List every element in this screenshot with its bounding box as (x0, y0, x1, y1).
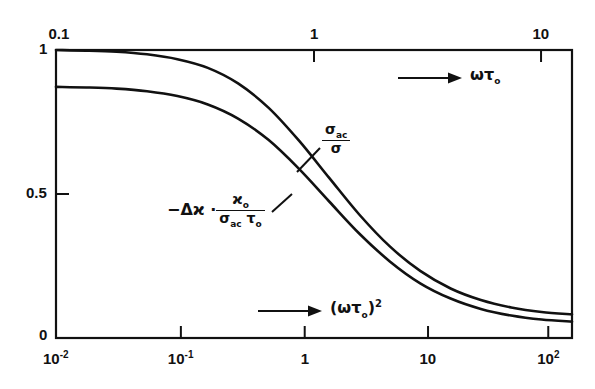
annotation-sigma-ratio: σac σ (322, 122, 350, 155)
bottom-tick-base-1: 10 (168, 350, 185, 367)
bottom-tick-label-3: 10 (420, 350, 437, 366)
sigma-den-symbol: σ (219, 210, 230, 226)
bottom-tick-exp-0: -2 (60, 349, 69, 360)
plot-frame (56, 50, 572, 338)
omega-tau-sq-base: (ωτ (330, 298, 361, 317)
sigma-ratio-fraction: σac σ (322, 122, 350, 155)
bottom-tick-exp-1: -1 (185, 349, 194, 360)
delta-kappa-denominator: σac τo (216, 210, 264, 229)
omega-tau-sq-exp: 2 (375, 298, 382, 309)
annotation-delta-kappa: −Δϰ · ϰo σac τo (167, 192, 265, 229)
bottom-tick-base-0: 10 (43, 350, 60, 367)
kappa-num-subscript: o (243, 200, 249, 210)
bottom-tick-label-4: 102 (537, 350, 559, 366)
top-axis-variable-label: ωτo (470, 67, 500, 86)
bottom-axis-variable-label: (ωτo)2 (330, 299, 382, 320)
y-tick-label-1: 1 (39, 41, 47, 56)
y-tick-label-0: 0 (39, 327, 47, 342)
bottom-tick-base-3: 10 (420, 350, 437, 367)
sigma-den-subscript: ac (230, 219, 241, 229)
bottom-tick-base-4: 10 (537, 350, 554, 367)
leader-line-lower (272, 194, 292, 212)
sigma-ratio-numerator: σac (322, 122, 350, 140)
kappa-num-symbol: ϰ (232, 191, 242, 207)
bottom-tick-exp-4: 2 (554, 349, 560, 360)
figure-root: 0.1 1 10 10-2 10-1 1 10 102 1 0.5 0 ωτo … (0, 0, 595, 389)
arrow-omega-tau-squared (258, 306, 322, 317)
curve-delta-kappa (56, 87, 572, 322)
sigma-ratio-denominator: σ (322, 140, 350, 155)
y-tick-label-05: 0.5 (26, 185, 47, 200)
omega-tau-text: ωτ (470, 65, 494, 84)
bottom-axis-ticks (56, 326, 548, 338)
sigma-num-subscript: ac (336, 130, 347, 140)
top-tick-label-2: 10 (533, 26, 550, 41)
omega-tau-sq-close: ) (368, 298, 375, 317)
top-tick-label-0: 0.1 (49, 26, 70, 41)
tau-den-subscript: o (255, 219, 261, 229)
delta-kappa-numerator: ϰo (216, 192, 264, 210)
bottom-tick-label-0: 10-2 (43, 350, 69, 366)
bottom-tick-base-2: 1 (301, 350, 309, 367)
sigma-num-symbol: σ (325, 121, 336, 137)
delta-kappa-prefix: −Δϰ · (167, 202, 216, 218)
omega-tau-subscript: o (494, 76, 500, 86)
top-tick-label-1: 1 (310, 26, 318, 41)
bottom-tick-label-1: 10-1 (168, 350, 194, 366)
bottom-tick-label-2: 1 (301, 350, 309, 366)
plot-canvas (0, 0, 595, 389)
arrow-omega-tau (398, 73, 462, 84)
delta-kappa-fraction: ϰo σac τo (216, 192, 264, 229)
